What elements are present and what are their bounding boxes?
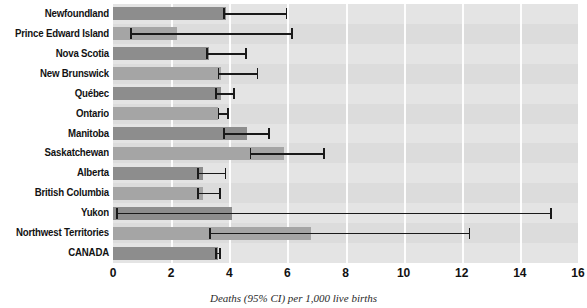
error-bar-cap-low [218, 108, 220, 119]
x-axis-tick-label: 10 [397, 266, 410, 280]
error-bar-line [197, 193, 220, 195]
y-axis-label: Québec [9, 84, 109, 104]
x-axis-tick-label: 2 [168, 266, 175, 280]
error-bar-cap-low [197, 168, 199, 179]
error-bar-cap-high [257, 68, 259, 79]
error-bar-line [223, 133, 270, 135]
error-bar-line [206, 53, 247, 55]
bar [113, 7, 226, 20]
error-bar [116, 208, 552, 219]
gridline [462, 4, 464, 263]
x-axis-tick-label: 16 [571, 266, 584, 280]
error-bar-line [130, 33, 293, 35]
error-bar-cap-low [206, 48, 208, 59]
x-axis-tick-label: 8 [342, 266, 349, 280]
error-bar [209, 228, 471, 239]
y-axis-label: Nova Scotia [9, 44, 109, 64]
x-axis-caption: Deaths (95% CI) per 1,000 live births [0, 292, 587, 304]
y-axis-label: Northwest Territories [9, 223, 109, 243]
error-bar-cap-low [223, 8, 225, 19]
y-axis-label: New Brunswick [9, 64, 109, 84]
y-axis-label: British Columbia [9, 183, 109, 203]
y-axis-label: Saskatchewan [9, 143, 109, 163]
infant-mortality-bar-chart: NewfoundlandPrince Edward IslandNova Sco… [0, 0, 587, 308]
error-bar-cap-high [550, 208, 552, 219]
error-bar-line [209, 233, 471, 235]
error-bar-cap-low [215, 88, 217, 99]
error-bar-cap-high [227, 108, 229, 119]
error-bar [215, 88, 235, 99]
error-bar-cap-high [219, 248, 221, 259]
x-axis-tick-label: 12 [455, 266, 468, 280]
error-bar-cap-high [286, 8, 288, 19]
error-bar-cap-high [268, 128, 270, 139]
error-bar-cap-low [223, 128, 225, 139]
gridline [287, 4, 289, 263]
bar [113, 167, 203, 180]
error-bar [250, 148, 326, 159]
bar [113, 247, 218, 260]
y-axis-label: Newfoundland [9, 4, 109, 24]
gridline [520, 4, 522, 263]
error-bar-cap-high [245, 48, 247, 59]
x-axis-tick-label: 14 [513, 266, 526, 280]
y-axis-label: CANADA [9, 243, 109, 263]
plot-area [113, 4, 578, 263]
x-axis-ticks: 0246810121416 [0, 266, 587, 282]
y-axis-label: Prince Edward Island [9, 24, 109, 44]
error-bar-cap-high [233, 88, 235, 99]
error-bar-line [215, 93, 235, 95]
error-bar-line [197, 173, 226, 175]
error-bar [130, 28, 293, 39]
bar [113, 47, 209, 60]
error-bar-cap-high [225, 168, 227, 179]
error-bar [223, 128, 270, 139]
error-bar-cap-high [469, 228, 471, 239]
bar [113, 107, 218, 120]
bar [113, 87, 221, 100]
error-bar [215, 248, 221, 259]
gridline [346, 4, 348, 263]
y-axis-label: Ontario [9, 104, 109, 124]
gridline [404, 4, 406, 263]
y-axis-label: Alberta [9, 163, 109, 183]
x-axis-tick-label: 0 [110, 266, 117, 280]
x-axis-tick-label: 4 [226, 266, 233, 280]
error-bar-cap-high [291, 28, 293, 39]
error-bar-line [116, 213, 552, 215]
error-bar-cap-low [218, 68, 220, 79]
error-bar-cap-low [209, 228, 211, 239]
error-bar-cap-low [215, 248, 217, 259]
error-bar [206, 48, 247, 59]
error-bar-cap-low [250, 148, 252, 159]
bar [113, 67, 221, 80]
y-axis-label: Manitoba [9, 124, 109, 144]
error-bar [197, 188, 220, 199]
error-bar-cap-low [130, 28, 132, 39]
error-bar-cap-low [197, 188, 199, 199]
error-bar-line [218, 73, 259, 75]
y-axis-label: Yukon [9, 203, 109, 223]
bar [113, 187, 203, 200]
error-bar [218, 68, 259, 79]
error-bar-cap-high [323, 148, 325, 159]
error-bar-line [223, 13, 287, 15]
error-bar-cap-low [116, 208, 118, 219]
error-bar [218, 108, 230, 119]
error-bar [197, 168, 226, 179]
error-bar-line [250, 153, 326, 155]
x-axis-tick-label: 6 [284, 266, 291, 280]
error-bar-cap-high [219, 188, 221, 199]
error-bar [223, 8, 287, 19]
y-axis-labels: NewfoundlandPrince Edward IslandNova Sco… [0, 4, 109, 263]
